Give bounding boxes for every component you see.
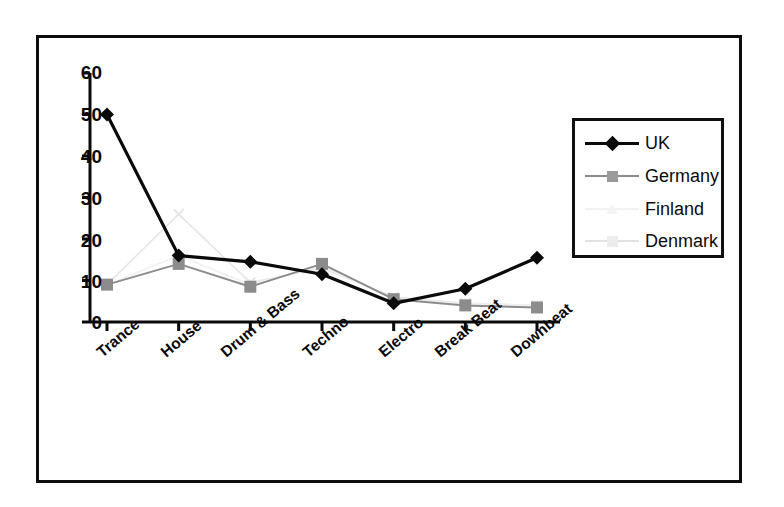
legend-item-finland[interactable]: Finland [575, 193, 721, 225]
legend-label-uk: UK [645, 134, 670, 152]
y-tick-label: 40 [58, 147, 102, 166]
chart-legend: UK Germany Finland Denmark [572, 118, 724, 258]
legend-label-germany: Germany [645, 167, 719, 185]
legend-item-uk[interactable]: UK [575, 127, 721, 159]
legend-label-finland: Finland [645, 200, 704, 218]
triangle-marker-icon [606, 204, 618, 214]
chart-screenshot: 60 50 40 30 20 10 0 Trance House Drum & … [0, 0, 784, 507]
legend-key-finland [581, 198, 643, 220]
y-tick-label: 60 [58, 63, 102, 82]
legend-key-germany [581, 165, 643, 187]
legend-key-uk [581, 132, 643, 154]
cross-marker-icon [607, 236, 618, 247]
y-tick-label: 50 [58, 105, 102, 124]
chart-outer-frame [36, 35, 742, 483]
y-tick-label: 10 [58, 272, 102, 291]
y-tick-label: 20 [58, 231, 102, 250]
legend-key-denmark [581, 230, 643, 252]
square-marker-icon [607, 171, 618, 182]
y-tick-label: 30 [58, 189, 102, 208]
y-tick-label: 0 [58, 313, 102, 332]
legend-item-denmark[interactable]: Denmark [575, 225, 721, 257]
legend-item-germany[interactable]: Germany [575, 160, 721, 192]
legend-label-denmark: Denmark [645, 232, 718, 250]
diamond-marker-icon [604, 135, 620, 151]
